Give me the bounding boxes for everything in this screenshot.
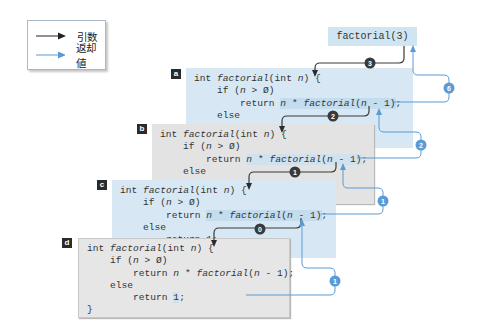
frame-a-line-2: if (n > Ø) — [194, 85, 275, 96]
frame-d-line-3: return n * factorial(n - 1); — [87, 268, 294, 279]
legend-return-label: 返却値 — [76, 40, 105, 70]
svg-text:6: 6 — [447, 85, 451, 92]
frame-c-line-2: if (n > Ø) — [120, 197, 201, 208]
svg-text:3: 3 — [368, 60, 372, 67]
frame-b-line-4: else — [160, 166, 206, 177]
frame-c-line-4: else — [120, 222, 166, 233]
frame-d: int factorial(int n) { if (n > Ø) return… — [78, 238, 290, 318]
frame-d-line-2: if (n > Ø) — [87, 255, 168, 266]
legend: 引数 返却値 — [27, 20, 106, 70]
legend-return: 返却値 — [36, 47, 105, 63]
frame-b-line-2: if (n > Ø) — [160, 141, 241, 152]
frame-b-line-3: return n * factorial(n - 1); — [160, 154, 367, 165]
frame-a-line-3: return n * factorial(n - 1); — [194, 98, 401, 109]
frame-b-line-1: int factorial(int n) { — [160, 129, 287, 140]
svg-text:2: 2 — [419, 142, 423, 149]
frame-b-tag: b — [137, 124, 147, 134]
svg-text:1: 1 — [381, 198, 385, 205]
svg-text:1: 1 — [333, 278, 337, 285]
top-call-box: factorial(3) — [328, 27, 417, 46]
frame-a-line-1: int factorial(int n) { — [194, 73, 321, 84]
dark-arrow-icon — [36, 32, 66, 40]
frame-c-line-1: int factorial(int n) { — [120, 185, 247, 196]
frame-c-tag: c — [97, 180, 107, 190]
frame-c-line-3: return n * factorial(n - 1); — [120, 210, 327, 221]
frame-d-line-4: else — [87, 280, 133, 291]
frame-d-tag: d — [62, 238, 72, 248]
frame-d-line-5: return 1; — [87, 292, 185, 303]
frame-a-line-4: else — [194, 110, 240, 121]
frame-a-tag: a — [171, 69, 181, 79]
frame-d-line-6: } — [87, 304, 93, 315]
blue-arrow-icon — [36, 51, 65, 59]
frame-d-line-1: int factorial(int n) { — [87, 243, 214, 254]
